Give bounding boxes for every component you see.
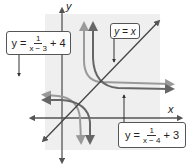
- curve-b-numerator: 1: [147, 126, 155, 136]
- line-equation-label: y = x: [110, 23, 140, 39]
- curve-b-constant: + 3: [163, 129, 179, 141]
- curve-b-lhs: y =: [125, 129, 140, 141]
- x-axis-label: x: [168, 103, 174, 115]
- curve-a-numerator: 1: [34, 34, 42, 44]
- curve-a-fraction: 1 x − 3: [28, 34, 48, 53]
- curve-a-constant: + 4: [50, 37, 66, 49]
- curve-a-denominator: x − 3: [28, 44, 48, 53]
- curve-a-lhs: y =: [11, 37, 26, 49]
- curve-a-equation-label: y = 1 x − 3 + 4: [6, 31, 71, 55]
- y-axis-label: y: [66, 0, 72, 12]
- curve-b-equation-label: y = 1 x − 4 + 3: [118, 122, 186, 148]
- line-equation-text: y = x: [114, 26, 135, 37]
- curve-b-fraction: 1 x − 4: [142, 126, 162, 145]
- curve-b-denominator: x − 4: [142, 136, 162, 145]
